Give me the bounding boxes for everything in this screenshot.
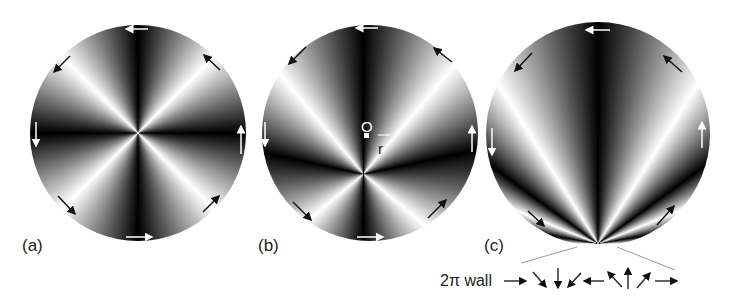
boundary-arrows-a	[36, 29, 241, 237]
arrows-overlay	[0, 0, 733, 300]
boundary-arrows-c	[492, 30, 702, 226]
wall-label: 2π wall	[440, 272, 492, 290]
wall-zoom-lines	[521, 247, 675, 270]
wall-arrow-sequence	[504, 268, 677, 289]
boundary-arrows-b	[265, 28, 472, 237]
